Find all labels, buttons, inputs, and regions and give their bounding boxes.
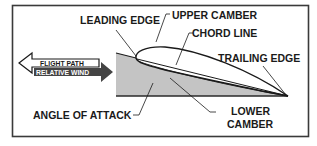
upper-camber-label: UPPER CAMBER [172, 9, 258, 21]
lower-camber-label-line1: LOWER [231, 105, 270, 117]
trailing-edge-label: TRAILING EDGE [218, 52, 300, 64]
chord-line-label: CHORD LINE [192, 27, 257, 39]
angle-of-attack-label: ANGLE OF ATTACK [33, 109, 132, 121]
airfoil-diagram: FLIGHT PATH RELATIVE WIND LEADING EDGE U… [0, 0, 317, 146]
leading-edge-label: LEADING EDGE [80, 14, 160, 26]
relative-wind-label: RELATIVE WIND [36, 69, 89, 76]
lower-camber-label-line2: CAMBER [227, 118, 273, 130]
flight-path-label: FLIGHT PATH [40, 60, 84, 67]
